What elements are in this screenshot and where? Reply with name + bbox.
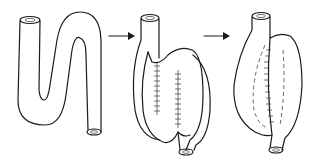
stage-1-s-tube bbox=[18, 12, 101, 135]
diagram-canvas bbox=[0, 0, 314, 164]
arrow-1-icon bbox=[109, 32, 135, 40]
arrow-2-icon bbox=[204, 32, 230, 40]
suture-line-left bbox=[154, 62, 160, 115]
stage-2-opened-plate bbox=[133, 15, 210, 156]
stage-3-closed-pouch bbox=[234, 13, 302, 154]
suture-line-right bbox=[175, 70, 181, 128]
diagram-svg bbox=[0, 0, 314, 164]
